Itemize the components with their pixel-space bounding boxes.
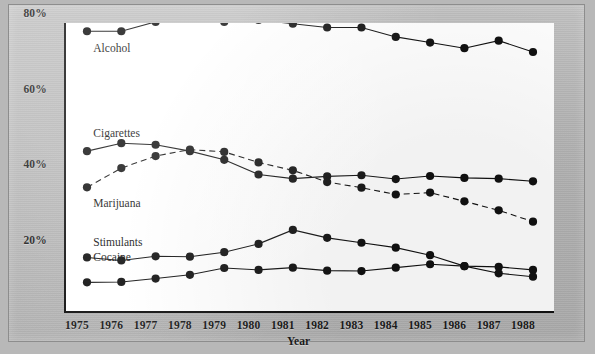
chart-screenshot: 80% 60% 40% 20% AlcoholCigarettesMarijua…	[0, 0, 595, 354]
series-label-stimulants: Stimulants	[93, 236, 142, 248]
data-point	[392, 33, 400, 41]
data-point	[529, 273, 537, 281]
data-point	[460, 44, 468, 52]
data-point	[495, 37, 503, 45]
data-point	[392, 190, 400, 198]
data-point	[254, 23, 262, 24]
data-point	[152, 141, 160, 149]
data-point	[426, 38, 434, 46]
data-point	[357, 23, 365, 31]
data-point	[529, 218, 537, 226]
data-point	[152, 252, 160, 260]
y-tick-label-80: 80%	[5, 7, 47, 19]
data-point	[83, 147, 91, 155]
data-point	[323, 234, 331, 242]
data-point	[254, 266, 262, 274]
series-label-cocaine: Cocaine	[93, 251, 131, 263]
data-point	[529, 48, 537, 56]
data-point	[117, 164, 125, 172]
x-tick-label-1988: 1988	[501, 319, 545, 331]
data-point	[426, 260, 434, 268]
data-point	[254, 158, 262, 166]
data-point	[220, 248, 228, 256]
data-point	[186, 253, 194, 261]
data-point	[220, 148, 228, 156]
y-tick-label-40: 40%	[5, 158, 47, 170]
data-point	[426, 251, 434, 259]
data-point	[426, 189, 434, 197]
chart-svg	[66, 23, 556, 313]
data-point	[392, 264, 400, 272]
data-point	[254, 170, 262, 178]
data-point	[117, 27, 125, 35]
data-point	[495, 175, 503, 183]
data-point	[83, 278, 91, 286]
data-point	[357, 267, 365, 275]
data-point	[460, 174, 468, 182]
data-point	[152, 152, 160, 160]
data-point	[289, 23, 297, 28]
data-point	[186, 146, 194, 154]
y-tick-label-20: 20%	[5, 234, 47, 246]
data-point	[495, 269, 503, 277]
data-point	[323, 178, 331, 186]
data-point	[117, 278, 125, 286]
data-point	[289, 264, 297, 272]
data-point	[83, 27, 91, 35]
data-point	[529, 177, 537, 185]
data-point	[289, 166, 297, 174]
series-label-alcohol: Alcohol	[93, 42, 130, 54]
data-point	[460, 197, 468, 205]
data-point	[460, 262, 468, 270]
data-point	[323, 23, 331, 31]
data-point	[117, 139, 125, 147]
data-point	[495, 206, 503, 214]
data-point	[186, 271, 194, 279]
data-point	[392, 175, 400, 183]
data-point	[289, 175, 297, 183]
series-line-marijuana	[87, 150, 533, 222]
x-axis-title: Year	[1, 335, 595, 347]
data-point	[220, 264, 228, 272]
data-point	[357, 171, 365, 179]
data-point	[220, 23, 228, 26]
data-point	[254, 240, 262, 248]
chart-panel: 80% 60% 40% 20% AlcoholCigarettesMarijua…	[8, 4, 585, 342]
plot-area: AlcoholCigarettesMarijuanaStimulantsCoca…	[64, 23, 554, 313]
data-point	[83, 253, 91, 261]
data-point	[152, 23, 160, 26]
data-point	[323, 267, 331, 275]
data-point	[152, 274, 160, 282]
y-tick-label-60: 60%	[5, 83, 47, 95]
data-point	[357, 184, 365, 192]
data-point	[83, 183, 91, 191]
data-point	[426, 172, 434, 180]
data-point	[289, 226, 297, 234]
series-label-cigarettes: Cigarettes	[93, 127, 140, 139]
series-label-marijuana: Marijuana	[93, 197, 140, 209]
data-point	[392, 244, 400, 252]
data-point	[357, 239, 365, 247]
data-point	[220, 156, 228, 164]
